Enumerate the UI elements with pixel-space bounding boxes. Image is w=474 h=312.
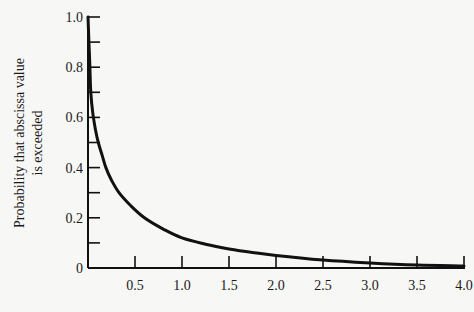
- x-tick-label: 1.0: [173, 278, 191, 293]
- x-tick-label: 4.0: [455, 278, 473, 293]
- x-tick-label: 2.0: [267, 278, 285, 293]
- y-axis-ticks: 00.20.40.60.81.0: [66, 10, 101, 276]
- y-tick-label: 0.8: [66, 60, 84, 75]
- y-tick-label: 0: [76, 261, 83, 276]
- x-tick-label: 3.5: [408, 278, 426, 293]
- exceedance-chart: Probability that abscissa valueis exceed…: [0, 0, 474, 312]
- y-axis-label-line: is exceeded: [30, 111, 45, 176]
- y-tick-label: 0.4: [66, 161, 84, 176]
- x-tick-label: 2.5: [314, 278, 332, 293]
- x-tick-label: 3.0: [361, 278, 379, 293]
- x-axis-ticks: 0.51.01.52.02.53.03.54.0: [126, 256, 473, 293]
- x-tick-label: 1.5: [220, 278, 238, 293]
- exceedance-curve: [88, 17, 464, 266]
- y-tick-label: 0.6: [66, 110, 84, 125]
- y-tick-label: 1.0: [66, 10, 84, 25]
- y-axis-label-line: Probability that abscissa value: [12, 58, 27, 228]
- y-axis-label: Probability that abscissa valueis exceed…: [12, 58, 45, 228]
- x-tick-label: 0.5: [126, 278, 144, 293]
- axes: [88, 16, 465, 268]
- y-tick-label: 0.2: [66, 211, 84, 226]
